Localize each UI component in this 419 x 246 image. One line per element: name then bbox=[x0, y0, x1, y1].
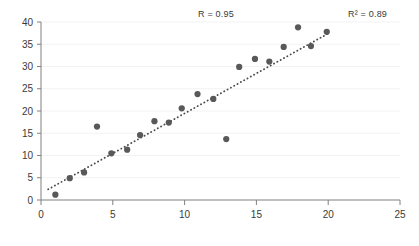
data-point bbox=[151, 118, 157, 124]
x-tick-label: 25 bbox=[394, 209, 406, 220]
y-tick-label: 10 bbox=[22, 150, 34, 161]
x-tick-label: 15 bbox=[251, 209, 263, 220]
data-point bbox=[295, 24, 301, 30]
correlation-annotation: R = 0.95 bbox=[198, 9, 234, 19]
data-point bbox=[308, 43, 314, 49]
plot-canvas: 0510152025303540 0510152025 bbox=[0, 0, 419, 246]
data-point bbox=[210, 96, 216, 102]
data-point bbox=[252, 56, 258, 62]
scatter-chart: 0510152025303540 0510152025 R = 0.95 R² … bbox=[0, 0, 419, 246]
y-tick-label: 0 bbox=[27, 195, 33, 206]
x-axis-ticks bbox=[41, 200, 400, 205]
y-axis-ticks bbox=[37, 22, 41, 200]
y-tick-label: 25 bbox=[22, 83, 34, 94]
data-point bbox=[236, 64, 242, 70]
data-point bbox=[52, 192, 58, 198]
y-tick-label: 35 bbox=[22, 39, 34, 50]
x-axis-tick-labels: 0510152025 bbox=[38, 209, 406, 220]
grid-lines bbox=[41, 22, 400, 178]
y-tick-label: 5 bbox=[27, 172, 33, 183]
data-point bbox=[81, 169, 87, 175]
data-point bbox=[223, 136, 229, 142]
x-tick-label: 0 bbox=[38, 209, 44, 220]
data-point bbox=[281, 44, 287, 50]
r-squared-annotation: R² = 0.89 bbox=[348, 9, 387, 19]
data-point bbox=[67, 175, 73, 181]
x-tick-label: 5 bbox=[110, 209, 116, 220]
data-point bbox=[166, 119, 172, 125]
data-point bbox=[108, 150, 114, 156]
data-point bbox=[94, 123, 100, 129]
y-tick-label: 15 bbox=[22, 128, 34, 139]
y-tick-label: 20 bbox=[22, 106, 34, 117]
x-tick-label: 10 bbox=[179, 209, 191, 220]
data-point bbox=[179, 105, 185, 111]
data-point bbox=[124, 147, 130, 153]
data-point bbox=[324, 29, 330, 35]
data-point bbox=[266, 58, 272, 64]
x-tick-label: 20 bbox=[323, 209, 335, 220]
y-axis-tick-labels: 0510152025303540 bbox=[22, 17, 34, 206]
data-point bbox=[137, 132, 143, 138]
y-tick-label: 30 bbox=[22, 61, 34, 72]
y-tick-label: 40 bbox=[22, 17, 34, 28]
data-point bbox=[194, 91, 200, 97]
